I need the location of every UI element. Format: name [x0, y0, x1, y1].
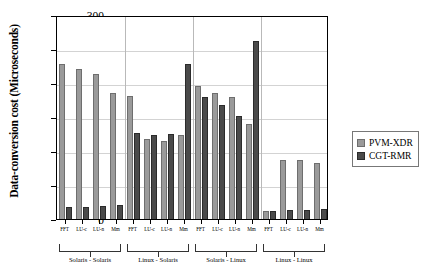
bar-cgt-rmr	[117, 205, 123, 219]
x-axis-tick-mark	[150, 220, 151, 224]
x-axis-tick-mark	[252, 220, 253, 224]
bar-cgt-rmr	[236, 116, 242, 219]
x-axis-tick-mark	[167, 220, 168, 224]
bar-pvm-xdr	[127, 96, 133, 219]
bar-pvm-xdr	[297, 160, 303, 219]
group-label: Linux - Linux	[239, 256, 349, 263]
bar-chart: Data-conversion cost (Microseconds) 0501…	[0, 0, 438, 280]
bar-cgt-rmr	[185, 64, 191, 219]
bar-cgt-rmr	[321, 209, 327, 219]
bar-pvm-xdr	[195, 86, 201, 219]
group-brace	[263, 244, 325, 252]
legend: PVM-XDR CGT-RMR	[352, 131, 419, 167]
x-axis-tick-mark	[269, 220, 270, 224]
bar-cgt-rmr	[219, 105, 225, 219]
legend-swatch-pvm-xdr	[357, 139, 365, 147]
x-axis-tick-mark	[116, 220, 117, 224]
bar-pvm-xdr	[314, 163, 320, 219]
bar-cgt-rmr	[270, 211, 276, 219]
bar-pvm-xdr	[59, 64, 65, 219]
bar-pvm-xdr	[246, 124, 252, 219]
bar-pvm-xdr	[263, 211, 269, 219]
legend-swatch-cgt-rmr	[357, 152, 365, 160]
group-brace	[195, 244, 257, 252]
group-brace	[59, 244, 121, 252]
x-axis-tick-mark	[235, 220, 236, 224]
bar-cgt-rmr	[151, 135, 157, 219]
bar-cgt-rmr	[168, 134, 174, 219]
bar-cgt-rmr	[202, 97, 208, 219]
bar-pvm-xdr	[93, 74, 99, 219]
x-axis-tick-label: Mm	[305, 226, 335, 232]
x-axis-tick-mark	[65, 220, 66, 224]
bar-pvm-xdr	[178, 135, 184, 219]
bar-cgt-rmr	[66, 207, 72, 219]
legend-item: CGT-RMR	[357, 149, 413, 162]
bar-cgt-rmr	[134, 133, 140, 219]
bar-cgt-rmr	[100, 206, 106, 219]
bar-cgt-rmr	[253, 41, 259, 219]
bar-pvm-xdr	[229, 97, 235, 219]
x-axis-tick-mark	[218, 220, 219, 224]
legend-label-cgt-rmr: CGT-RMR	[369, 151, 411, 161]
x-axis-tick-mark	[133, 220, 134, 224]
x-axis-tick-mark	[286, 220, 287, 224]
bar-pvm-xdr	[161, 141, 167, 219]
legend-label-pvm-xdr: PVM-XDR	[369, 138, 413, 148]
x-axis-tick-mark	[184, 220, 185, 224]
bar-pvm-xdr	[144, 139, 150, 219]
bars-layer	[57, 17, 327, 219]
x-axis-tick-mark	[303, 220, 304, 224]
bar-cgt-rmr	[83, 207, 89, 219]
legend-item: PVM-XDR	[357, 136, 413, 149]
x-axis-tick-mark	[320, 220, 321, 224]
bar-pvm-xdr	[212, 93, 218, 219]
group-brace	[127, 244, 189, 252]
y-axis-tick-mark	[51, 220, 56, 221]
bar-pvm-xdr	[280, 160, 286, 219]
x-axis-tick-mark	[201, 220, 202, 224]
x-axis-tick-mark	[99, 220, 100, 224]
bar-cgt-rmr	[287, 210, 293, 219]
bar-pvm-xdr	[110, 93, 116, 219]
y-axis-title: Data-conversion cost (Microseconds)	[8, 1, 20, 221]
bar-cgt-rmr	[304, 210, 310, 219]
bar-pvm-xdr	[76, 69, 82, 219]
plot-area	[56, 16, 328, 220]
x-axis-tick-mark	[82, 220, 83, 224]
